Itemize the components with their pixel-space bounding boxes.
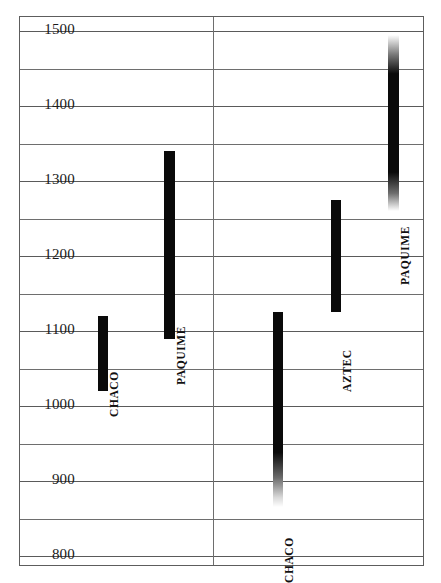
y-tick-label-1300: 1300	[13, 172, 75, 187]
y-tick-label-1000: 1000	[13, 397, 75, 412]
gridline-800	[20, 556, 423, 557]
y-tick-label-1100: 1100	[13, 322, 75, 337]
gridline-1100	[20, 331, 423, 332]
gridline-850	[20, 519, 423, 520]
bar-paquime-1	[164, 151, 175, 339]
y-tick-label-800: 800	[13, 547, 75, 562]
y-tick-label-1400: 1400	[13, 97, 75, 112]
gridline-950	[20, 444, 423, 445]
gridline-1050	[20, 369, 423, 370]
gridline-1400	[20, 106, 423, 107]
gridline-1350	[20, 144, 423, 145]
bar-label-aztec-3: AZTEC	[342, 349, 354, 392]
gridline-900	[20, 481, 423, 482]
bar-label-paquime-1: PAQUIME	[176, 326, 188, 385]
y-tick-label-1500: 1500	[13, 22, 75, 37]
bar-label-paquime-4: PAQUIME	[400, 226, 412, 285]
gridline-1200	[20, 256, 423, 257]
gridline-1000	[20, 406, 423, 407]
bar-paquime-4	[388, 35, 399, 211]
gridline-1250	[20, 219, 423, 220]
bar-aztec-3	[331, 200, 341, 313]
vertical-divider	[213, 17, 214, 565]
gridline-1150	[20, 294, 423, 295]
bar-chaco-0	[98, 316, 108, 391]
y-tick-label-1200: 1200	[13, 247, 75, 262]
bar-chaco-2	[273, 312, 283, 507]
bar-label-chaco-0: CHACO	[109, 371, 121, 417]
gridline-1450	[20, 69, 423, 70]
plot-area: CHACOPAQUIMECHACOAZTECPAQUIME	[19, 16, 424, 566]
gridline-1300	[20, 181, 423, 182]
gridline-1500	[20, 31, 423, 32]
bar-label-chaco-2: CHACO	[284, 537, 296, 583]
y-tick-label-900: 900	[13, 472, 75, 487]
